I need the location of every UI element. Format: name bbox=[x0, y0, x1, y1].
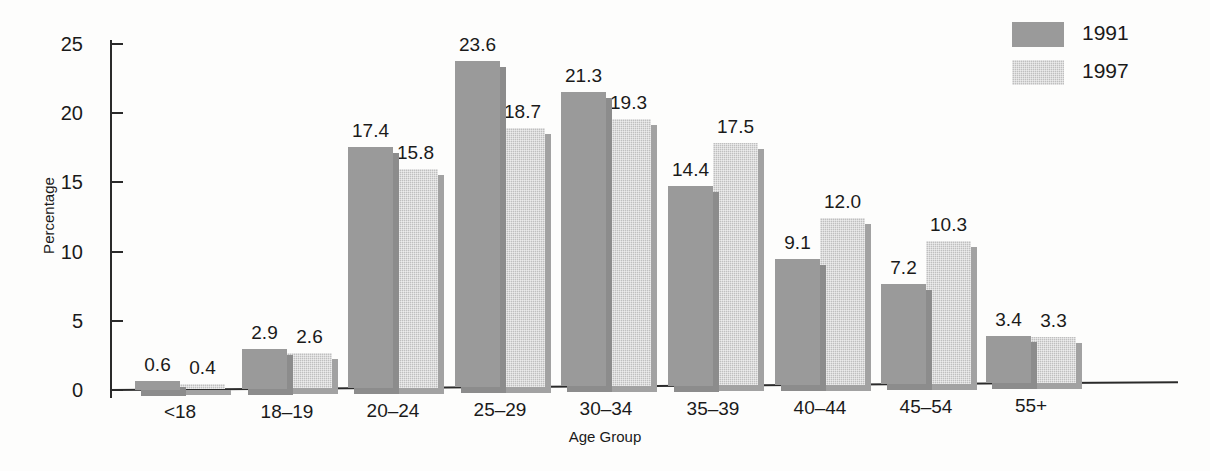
bar-shadow bbox=[186, 390, 231, 396]
bar-fill bbox=[926, 241, 971, 384]
y-tick-10 bbox=[112, 251, 123, 253]
legend-swatch-fill-1991 bbox=[1012, 22, 1064, 47]
legend-label-1997: 1997 bbox=[1082, 58, 1129, 84]
bar-1991-45–54[interactable] bbox=[881, 284, 926, 384]
y-tick-15 bbox=[112, 181, 123, 183]
bar-fill bbox=[500, 128, 545, 387]
bar-value-1991-20–24: 17.4 bbox=[316, 121, 426, 141]
legend-label-1991: 1991 bbox=[1082, 20, 1129, 46]
bar-1991-25–29[interactable] bbox=[455, 61, 500, 388]
bar-fill bbox=[180, 384, 225, 390]
bar-1991-40–44[interactable] bbox=[775, 259, 820, 385]
bar-fill bbox=[135, 381, 180, 389]
bar-value-1997-55+: 3.3 bbox=[999, 311, 1109, 331]
legend-swatch-1991 bbox=[1012, 22, 1064, 47]
bar-fill bbox=[881, 284, 926, 384]
y-tick-label-20: 20 bbox=[39, 103, 83, 123]
bar-1991-18–19[interactable] bbox=[242, 349, 287, 389]
bar-fill bbox=[820, 218, 865, 384]
bar-fill bbox=[606, 119, 651, 386]
bar-1991-20–24[interactable] bbox=[348, 147, 393, 388]
bar-1997-18–19[interactable] bbox=[287, 353, 332, 389]
y-axis-title: Percentage bbox=[41, 146, 56, 286]
y-tick-label-10: 10 bbox=[39, 242, 83, 262]
bar-value-1997-45–54: 10.3 bbox=[894, 215, 1004, 235]
y-tick-20 bbox=[112, 112, 123, 114]
bar-1997-<18[interactable] bbox=[180, 384, 225, 390]
bar-1997-40–44[interactable] bbox=[820, 218, 865, 384]
bar-fill bbox=[287, 353, 332, 389]
y-tick-label-0: 0 bbox=[39, 380, 83, 400]
bar-fill bbox=[986, 336, 1031, 383]
bar-chart: Percentage 0510152025 <1818–1920–2425–29… bbox=[0, 0, 1210, 471]
y-axis-line bbox=[110, 40, 112, 398]
bar-fill bbox=[561, 92, 606, 387]
bar-1991-30–34[interactable] bbox=[561, 92, 606, 387]
bar-fill bbox=[668, 186, 713, 385]
bar-value-1991-30–34: 21.3 bbox=[529, 66, 639, 86]
x-tick-label-8: 55+ bbox=[966, 396, 1096, 416]
bar-1991-<18[interactable] bbox=[135, 381, 180, 389]
legend-swatch-1997 bbox=[1012, 60, 1064, 85]
bar-1997-55+[interactable] bbox=[1031, 337, 1076, 383]
y-tick-label-5: 5 bbox=[39, 311, 83, 331]
y-tick-label-15: 15 bbox=[39, 172, 83, 192]
y-tick-25 bbox=[112, 43, 123, 45]
legend-swatch-fill-1997 bbox=[1012, 60, 1064, 85]
bar-1997-30–34[interactable] bbox=[606, 119, 651, 386]
bar-fill bbox=[775, 259, 820, 385]
bar-value-1997-40–44: 12.0 bbox=[788, 192, 898, 212]
bar-fill bbox=[1031, 337, 1076, 383]
bar-1991-55+[interactable] bbox=[986, 336, 1031, 383]
bar-fill bbox=[713, 143, 758, 385]
bar-fill bbox=[455, 61, 500, 388]
bar-fill bbox=[348, 147, 393, 388]
bar-1997-45–54[interactable] bbox=[926, 241, 971, 384]
y-tick-5 bbox=[112, 320, 123, 322]
y-tick-label-25: 25 bbox=[39, 34, 83, 54]
bar-value-1997-<18: 0.4 bbox=[148, 358, 258, 378]
bar-1997-20–24[interactable] bbox=[393, 169, 438, 388]
bar-1997-35–39[interactable] bbox=[713, 143, 758, 385]
bar-fill bbox=[393, 169, 438, 388]
x-axis-title: Age Group bbox=[0, 429, 1210, 445]
bar-fill bbox=[242, 349, 287, 389]
bar-1991-35–39[interactable] bbox=[668, 186, 713, 385]
bar-value-1991-25–29: 23.6 bbox=[423, 35, 533, 55]
bar-1997-25–29[interactable] bbox=[500, 128, 545, 387]
bar-value-1997-35–39: 17.5 bbox=[681, 117, 791, 137]
